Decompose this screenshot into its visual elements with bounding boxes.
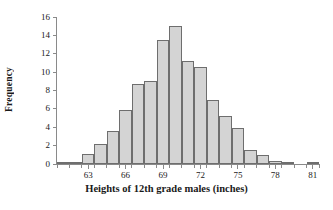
histogram-bar [282, 162, 294, 164]
x-tick-mark [244, 164, 245, 168]
x-tick-mark [256, 164, 257, 168]
x-tick-mark [119, 164, 120, 168]
histogram-bar [157, 40, 169, 164]
y-tick-label: 16 [41, 13, 53, 22]
histogram-bar [219, 116, 231, 164]
histogram-bar [257, 155, 269, 164]
histogram-bar [57, 162, 69, 164]
histogram-bar [119, 110, 131, 164]
x-tick-label: 81 [308, 169, 317, 180]
x-tick-mark [306, 164, 307, 168]
histogram-bar [182, 61, 194, 164]
x-tick-mark [269, 164, 270, 168]
y-tick-label: 6 [46, 104, 54, 113]
x-tick-mark [206, 164, 207, 168]
x-tick-mark [294, 164, 295, 168]
x-tick-mark [131, 164, 132, 168]
bars-layer [57, 17, 319, 164]
x-tick-mark [57, 164, 58, 168]
x-axis-title: Heights of 12th grade males (inches) [0, 183, 333, 194]
histogram-chart: Frequency 0246810121416 63666972757881 H… [0, 0, 333, 210]
histogram-bar [169, 26, 181, 164]
x-tick-mark [219, 164, 220, 168]
x-tick-mark [69, 164, 70, 168]
plot-area: 0246810121416 63666972757881 [57, 17, 319, 164]
histogram-bar [207, 100, 219, 164]
histogram-bar [144, 81, 156, 164]
histogram-bar [94, 144, 106, 164]
x-tick-label: 69 [159, 169, 168, 180]
x-tick-label: 66 [121, 169, 130, 180]
y-tick-label: 8 [46, 86, 54, 95]
y-tick-label: 14 [41, 31, 53, 40]
y-tick-label: 4 [46, 123, 54, 132]
x-tick-label: 63 [84, 169, 93, 180]
x-tick-label: 78 [271, 169, 280, 180]
y-tick-label: 2 [46, 141, 54, 150]
x-tick-label: 72 [196, 169, 205, 180]
x-tick-mark [169, 164, 170, 168]
histogram-bar [232, 128, 244, 164]
histogram-bar [194, 67, 206, 164]
x-tick-mark [94, 164, 95, 168]
x-tick-mark [231, 164, 232, 168]
x-tick-mark [106, 164, 107, 168]
x-tick-mark [281, 164, 282, 168]
y-tick-label: 12 [41, 49, 53, 58]
x-tick-mark [319, 164, 320, 168]
x-tick-mark [144, 164, 145, 168]
x-tick-mark [81, 164, 82, 168]
histogram-bar [244, 150, 256, 164]
y-tick-label: 0 [46, 160, 54, 169]
histogram-bar [107, 131, 119, 164]
y-axis-title-label: Frequency [4, 67, 14, 112]
y-axis-title: Frequency [2, 34, 16, 144]
x-tick-mark [156, 164, 157, 168]
histogram-bar [82, 154, 94, 164]
x-tick-mark [194, 164, 195, 168]
histogram-bar [132, 84, 144, 164]
histogram-bar [69, 162, 81, 164]
x-tick-mark [181, 164, 182, 168]
x-tick-label: 75 [233, 169, 242, 180]
x-axis-line [56, 164, 319, 165]
y-tick-label: 10 [41, 68, 53, 77]
